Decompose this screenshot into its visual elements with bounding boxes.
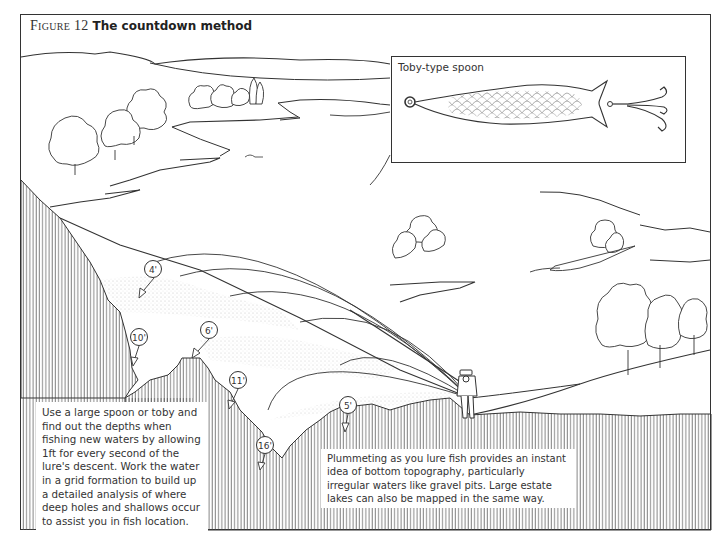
depth-marker-6ft: 6' xyxy=(200,321,218,339)
depth-marker-5ft: 5' xyxy=(339,396,357,414)
right-island xyxy=(530,220,635,272)
right-trees xyxy=(596,283,707,375)
depth-marker-10ft: 10' xyxy=(130,328,148,346)
far-trees xyxy=(189,78,264,109)
left-trees xyxy=(49,89,167,175)
caption-plummeting: Plummeting as you lure fish provides an … xyxy=(321,449,576,508)
depth-marker-16ft: 16' xyxy=(256,436,274,454)
far-hills xyxy=(21,52,390,64)
spoon-inset: Toby-type spoon xyxy=(391,56,686,163)
middle-island xyxy=(390,216,475,302)
caption-countdown-method: Use a large spoon or toby and find out t… xyxy=(36,402,208,532)
spoon-lure-icon xyxy=(392,57,687,164)
depth-marker-11ft: 11' xyxy=(229,371,247,389)
depth-marker-4ft: 4' xyxy=(144,260,162,278)
